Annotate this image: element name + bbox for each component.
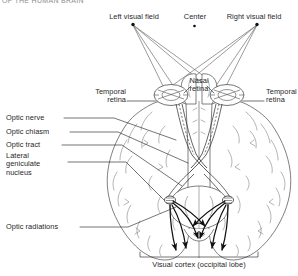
label-left-visual-field: Left visual field (86, 13, 182, 21)
label-optic-chiasm: Optic chiasm (6, 128, 49, 136)
label-lateral-geniculate-nucleus: Lateral geniculate nucleus (6, 152, 40, 177)
diagram-canvas (0, 0, 298, 276)
visual-pathway-diagram: Left visual field Center Right visual fi… (0, 0, 298, 276)
label-temporal-retina-left: Temporal retina (60, 88, 126, 105)
label-temporal-retina-right: Temporal retina (266, 88, 298, 105)
label-visual-cortex: Visual cortex (occipital lobe) (129, 261, 269, 269)
label-optic-radiations: Optic radiations (6, 223, 58, 231)
left-field-dot (131, 23, 134, 26)
center-fixation-dot (193, 25, 196, 28)
label-optic-nerve: Optic nerve (6, 114, 44, 122)
label-right-visual-field: Right visual field (210, 13, 298, 21)
label-optic-tract: Optic tract (6, 141, 40, 149)
right-field-dot (255, 23, 258, 26)
label-nasal-retina: Nasal retina (172, 77, 226, 94)
field-point-dots (131, 23, 258, 28)
